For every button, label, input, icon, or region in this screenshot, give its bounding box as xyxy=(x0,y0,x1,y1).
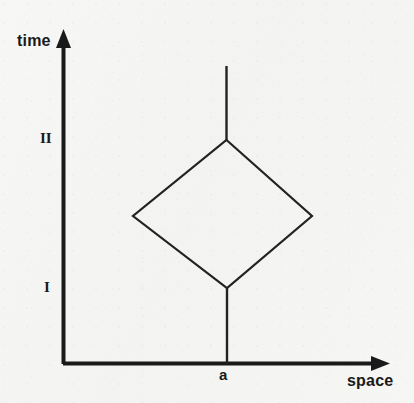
time-axis xyxy=(56,29,71,364)
time-axis-label: time xyxy=(17,33,51,49)
space-tick-label-a: a xyxy=(219,367,227,382)
time-tick-label-lower: I xyxy=(44,280,50,295)
time-axis-arrowhead xyxy=(56,29,71,48)
space-axis-arrowhead xyxy=(371,356,390,371)
spacetime-diagram-figure: time space II I a xyxy=(0,0,414,403)
light-cone-diamond xyxy=(133,140,312,288)
time-tick-label-upper: II xyxy=(40,131,52,146)
diagram-canvas xyxy=(0,0,414,403)
space-axis-label: space xyxy=(347,373,393,389)
